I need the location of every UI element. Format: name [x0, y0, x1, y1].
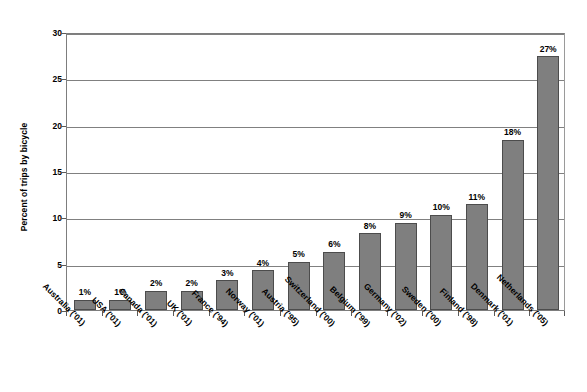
bar-group[interactable]: 3%	[210, 34, 246, 310]
bar-group[interactable]: 1%	[67, 34, 103, 310]
bar-value-label: 4%	[257, 259, 269, 268]
bicycle-mode-share-bar-chart: Percent of trips by bicycle 051015202530…	[0, 0, 587, 392]
bar-value-label: 10%	[433, 203, 450, 212]
y-axis-tick-label: 15	[40, 168, 62, 177]
bar-value-label: 2%	[150, 279, 162, 288]
bar-value-label: 3%	[221, 269, 233, 278]
y-axis-tick-labels: 051015202530	[38, 33, 62, 311]
bar-value-label: 27%	[540, 45, 557, 54]
bar-value-label: 1%	[79, 288, 91, 297]
bar-group[interactable]: 6%	[317, 34, 353, 310]
y-axis-tick-label: 30	[40, 29, 62, 38]
bar-group[interactable]: 18%	[495, 34, 531, 310]
bar-group[interactable]: 11%	[459, 34, 495, 310]
bar-value-label: 5%	[293, 250, 305, 259]
bars-layer: 1%1%2%2%3%4%5%6%8%9%10%11%18%27%	[67, 34, 564, 310]
y-axis-title-label: Percent of trips by bicycle	[19, 92, 29, 262]
y-axis-tick-label: 25	[40, 75, 62, 84]
bar-group[interactable]: 10%	[423, 34, 459, 310]
bar-group[interactable]: 1%	[103, 34, 139, 310]
bar-value-label: 2%	[186, 279, 198, 288]
bar-group[interactable]: 8%	[352, 34, 388, 310]
bar-value-label: 11%	[469, 193, 486, 202]
x-axis-tick-labels: Australia ('01)USA ('01)Canada ('01)UK (…	[66, 311, 565, 392]
plot-area: 1%1%2%2%3%4%5%6%8%9%10%11%18%27%	[66, 33, 565, 311]
y-axis-tick-label: 10	[40, 214, 62, 223]
y-axis-title: Percent of trips by bicycle	[19, 0, 35, 92]
y-axis-tick-label: 5	[40, 261, 62, 270]
bar-value-label: 6%	[328, 240, 340, 249]
bar[interactable]	[537, 56, 559, 310]
bar-group[interactable]: 9%	[388, 34, 424, 310]
bar-value-label: 9%	[399, 211, 411, 220]
bar-value-label: 8%	[364, 222, 376, 231]
bar[interactable]	[145, 291, 167, 310]
bar-group[interactable]: 5%	[281, 34, 317, 310]
bar-value-label: 18%	[504, 128, 521, 137]
bar-group[interactable]: 27%	[530, 34, 566, 310]
y-axis-tick-label: 20	[40, 122, 62, 131]
bar-group[interactable]: 2%	[138, 34, 174, 310]
bar-group[interactable]: 2%	[174, 34, 210, 310]
bar-group[interactable]: 4%	[245, 34, 281, 310]
y-axis-tick-label: 0	[40, 307, 62, 316]
